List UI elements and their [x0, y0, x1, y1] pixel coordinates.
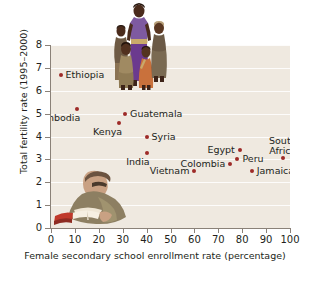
y-axis-tick-label: 8	[28, 40, 42, 50]
y-axis-tick	[45, 182, 50, 183]
y-axis-tick	[45, 114, 50, 115]
x-axis-tick	[123, 228, 124, 233]
point-label: Peru	[242, 154, 263, 164]
data-point	[145, 135, 149, 139]
data-point	[117, 121, 121, 125]
point-label: Jamaica	[257, 166, 290, 176]
point-label: Egypt	[207, 145, 234, 155]
x-axis-tick-label: 30	[111, 235, 135, 245]
y-axis-title: Total fertility rate (1995–2000)	[18, 17, 29, 187]
y-axis-tick	[45, 45, 50, 46]
x-axis-tick	[194, 228, 195, 233]
y-axis-tick-label: 0	[28, 223, 42, 233]
x-axis-tick	[51, 228, 52, 233]
data-point	[192, 169, 196, 173]
data-point	[235, 157, 239, 161]
x-axis-tick	[266, 228, 267, 233]
x-axis-tick-label: 20	[87, 235, 111, 245]
y-axis-tick	[45, 91, 50, 92]
point-label: India	[126, 157, 149, 167]
point-label: Cambodia	[51, 113, 80, 123]
y-axis-tick-label: 5	[28, 109, 42, 119]
point-label: Ethiopia	[66, 70, 105, 80]
point-label: SouthAfrica	[261, 136, 290, 156]
x-axis-title: Female secondary school enrollment rate …	[0, 250, 310, 261]
x-axis-tick-label: 60	[182, 235, 206, 245]
gridline	[51, 91, 290, 92]
point-label: Vietnam	[150, 166, 190, 176]
x-axis-tick	[75, 228, 76, 233]
x-axis-tick-label: 100	[278, 235, 302, 245]
data-point	[145, 151, 149, 155]
y-axis-tick	[45, 205, 50, 206]
y-axis-tick	[45, 68, 50, 69]
data-point	[75, 107, 79, 111]
data-point	[250, 169, 254, 173]
x-axis-tick-label: 90	[254, 235, 278, 245]
x-axis-tick	[290, 228, 291, 233]
y-axis-line	[50, 45, 51, 229]
x-axis-tick	[218, 228, 219, 233]
point-label: Guatemala	[130, 109, 182, 119]
point-label: Syria	[152, 132, 176, 142]
girl-reading-photo	[52, 166, 130, 228]
y-axis-tick	[45, 228, 50, 229]
data-point	[59, 73, 63, 77]
x-axis-tick	[99, 228, 100, 233]
y-axis-tick-label: 1	[28, 200, 42, 210]
family-photo	[106, 2, 172, 90]
x-axis-tick-label: 40	[135, 235, 159, 245]
x-axis-tick-label: 0	[39, 235, 63, 245]
data-point	[228, 162, 232, 166]
x-axis-tick-label: 10	[63, 235, 87, 245]
y-axis-tick-label: 6	[28, 86, 42, 96]
x-axis-tick-label: 80	[230, 235, 254, 245]
data-point	[238, 148, 242, 152]
x-axis-tick	[242, 228, 243, 233]
data-point	[123, 112, 127, 116]
y-axis-tick-label: 4	[28, 132, 42, 142]
y-axis-tick-label: 7	[28, 63, 42, 73]
x-axis-tick-label: 70	[206, 235, 230, 245]
x-axis-tick-label: 50	[159, 235, 183, 245]
y-axis-tick	[45, 159, 50, 160]
point-label: Kenya	[93, 127, 122, 137]
y-axis-tick	[45, 137, 50, 138]
y-axis-tick-label: 2	[28, 177, 42, 187]
scatter-plot-figure: EthiopiaCambodiaGuatemalaKenyaSyriaIndia…	[0, 0, 310, 281]
x-axis-tick	[147, 228, 148, 233]
x-axis-tick	[171, 228, 172, 233]
y-axis-tick-label: 3	[28, 154, 42, 164]
